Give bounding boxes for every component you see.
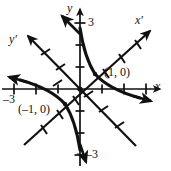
vertex-right-label: (1, 0)	[104, 66, 130, 78]
hyperbola-branch-left-upper-arrow	[9, 77, 27, 82]
vertex-left-label: (–1, 0)	[18, 103, 50, 115]
figure-canvas	[0, 0, 171, 171]
x-axis-tick-label-neg3: –3	[3, 93, 15, 105]
hyperbola-branch-right-lower-arrow	[133, 96, 151, 101]
y-axis-tick-label-neg3: –3	[86, 148, 98, 160]
vertex-left-marker	[63, 102, 67, 106]
hyperbola-rotated-axes-figure: y x x' y' 3 –3 –3 (1, 0) (–1, 0)	[0, 0, 171, 171]
y-prime-axis-label: y'	[9, 33, 17, 45]
y-axis-tick-label-3: 3	[88, 16, 94, 28]
hyperbola-branch-right-upper-arrow	[62, 16, 80, 34]
origin-marker	[77, 86, 82, 91]
x-axis-label: x	[155, 80, 160, 92]
vertex-right-marker	[93, 72, 97, 76]
y-axis-label: y	[67, 2, 72, 14]
x-prime-axis-label: x'	[135, 14, 143, 26]
